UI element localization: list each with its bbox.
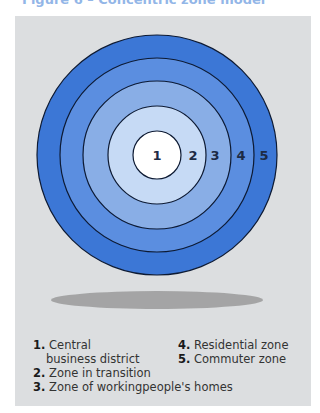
- legend-item-3: 3. Zone of workingpeople's homes: [33, 380, 233, 395]
- zone-4-label: 4: [236, 148, 245, 163]
- legend-item-1: 1. Central: [33, 338, 91, 353]
- legend-item-1-cont: business district: [46, 352, 140, 367]
- legend-item-5: 5. Commuter zone: [178, 352, 286, 367]
- legend-item-4: 4. Residential zone: [178, 338, 288, 353]
- legend-item-2: 2. Zone in transition: [33, 366, 151, 381]
- zone-1-label: 1: [152, 148, 161, 163]
- zone-3-label: 3: [210, 148, 219, 163]
- zone-5-label: 5: [259, 148, 268, 163]
- shadow: [51, 291, 263, 309]
- zone-2-label: 2: [188, 148, 197, 163]
